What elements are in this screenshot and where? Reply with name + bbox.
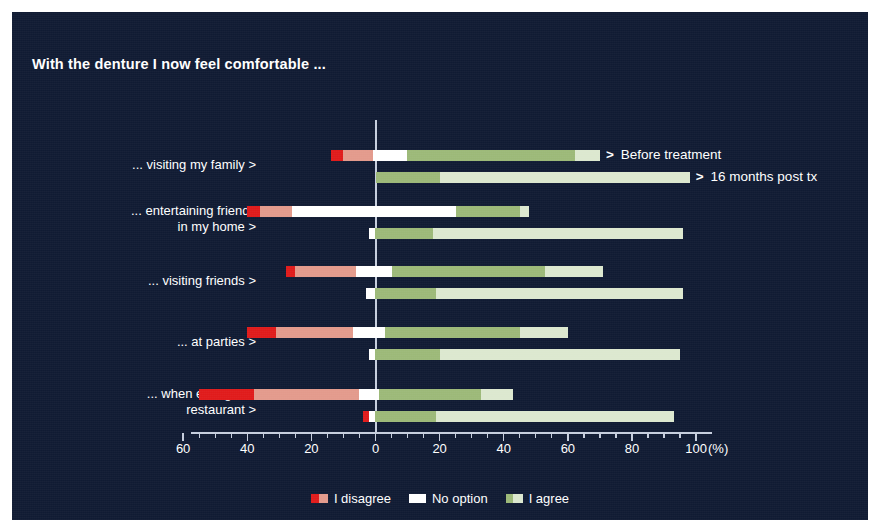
bar-post-treatment [376,172,690,183]
x-tick-label: 60 [176,441,190,456]
bar-segment-disagree [295,266,356,277]
bar-before-treatment [247,206,529,217]
x-tick-label: 20 [304,441,318,456]
x-tick-major [182,433,183,441]
bar-segment-agree [456,206,519,217]
bar-post-treatment [366,288,683,299]
x-tick-label: 100 [685,441,707,456]
callout-label-1: 16 months post tx [711,169,818,184]
bar-segment-disagree-strong [199,389,254,400]
bar-segment-disagree-strong [247,206,260,217]
bar-post-treatment [363,411,674,422]
x-tick-minor [199,433,200,438]
x-tick-minor [231,433,232,438]
category-label: ... visiting my family > [132,157,256,173]
legend-swatch-icon [311,494,328,503]
bar-segment-agree-strong [481,389,513,400]
callout-post-treatment: >16 months post tx [696,169,817,184]
bar-segment-agree [375,228,433,239]
x-tick-label: 80 [625,441,639,456]
bar-before-treatment [199,389,513,400]
bar-before-treatment [286,266,603,277]
legend-item: No option [409,491,488,506]
x-tick-major [695,433,696,441]
bar-segment-agree [392,266,546,277]
x-tick-minor [599,433,600,438]
x-tick-minor [519,433,520,438]
x-tick-minor [407,433,408,438]
bar-segment-agree-strong [436,288,683,299]
x-tick-minor [487,433,488,438]
bar-segment-agree-strong [440,349,680,360]
x-tick-major [567,433,568,441]
bar-segment-agree [376,172,440,183]
bar-segment-no-option [292,206,457,217]
x-tick-minor [327,433,328,438]
bar-segment-agree-strong [440,172,690,183]
legend-label: No option [432,491,488,506]
plot-area: 604020020406080100 (%) ... visiting my f… [12,12,868,520]
x-tick-minor [359,433,360,438]
bar-post-treatment [369,228,686,239]
x-tick-major [375,433,376,441]
x-tick-label: 60 [561,441,575,456]
callout-label-0: Before treatment [621,147,722,162]
chart-legend: I disagreeNo optionI agree [12,491,868,506]
bar-before-treatment [331,150,600,161]
x-axis-unit-label: (%) [708,441,728,456]
x-tick-minor [679,433,680,438]
x-tick-minor [583,433,584,438]
x-tick-minor [663,433,664,438]
x-tick-minor [215,433,216,438]
bar-segment-disagree [254,389,360,400]
bar-segment-no-option [359,389,378,400]
x-tick-major [503,433,504,441]
bar-segment-agree [375,349,439,360]
x-tick-minor [391,433,392,438]
x-tick-minor [535,433,536,438]
bar-segment-disagree [343,150,374,161]
x-tick-minor [647,433,648,438]
bar-segment-agree-strong [433,228,683,239]
bar-before-treatment [247,327,568,338]
bar-post-treatment [369,349,680,360]
callout-marker-1: > [696,169,704,184]
x-tick-label: 40 [240,441,254,456]
category-label: ... entertaining friends in my home > [131,203,256,235]
bar-segment-agree-strong [575,150,599,161]
legend-item: I agree [506,491,569,506]
x-tick-minor [471,433,472,438]
bar-segment-agree-strong [436,411,673,422]
bar-segment-no-option [366,288,376,299]
x-tick-minor [279,433,280,438]
bar-segment-no-option [356,266,391,277]
bar-segment-agree-strong [520,206,530,217]
x-tick-minor [295,433,296,438]
bar-segment-no-option [353,327,385,338]
legend-swatch-icon [409,494,426,503]
bar-segment-agree [385,327,520,338]
bar-segment-disagree [260,206,292,217]
category-label: ... at parties > [177,334,256,350]
bar-segment-disagree [276,327,353,338]
bar-segment-agree [375,411,436,422]
x-tick-major [631,433,632,441]
x-tick-label: 0 [372,441,379,456]
x-tick-minor [343,433,344,438]
callout-marker-0: > [606,147,614,162]
legend-item: I disagree [311,491,391,506]
bar-segment-disagree-strong [247,327,276,338]
legend-label: I agree [529,491,569,506]
x-tick-label: 40 [497,441,511,456]
bar-segment-agree [379,389,482,400]
bar-segment-agree [407,150,575,161]
x-tick-major [247,433,248,441]
x-tick-minor [263,433,264,438]
bar-segment-no-option [373,150,407,161]
x-tick-major [311,433,312,441]
x-tick-label: 20 [432,441,446,456]
bar-segment-agree [375,288,436,299]
x-tick-major [439,433,440,441]
x-axis-line [191,432,712,434]
legend-swatch-icon [506,494,523,503]
